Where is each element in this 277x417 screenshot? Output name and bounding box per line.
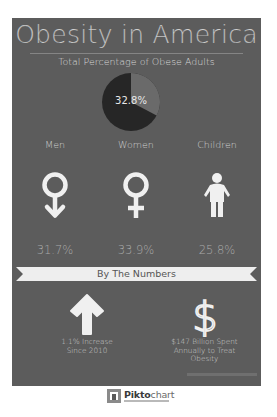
category-label-men: Men [15,139,95,150]
stat-spending-text: $147 Billion Spent Annually to Treat Obe… [152,338,257,364]
stat-spending-line3: Obesity [152,355,257,364]
category-value-children: 25.8% [177,243,257,257]
logo-tagline [124,400,169,402]
banner-label: By The Numbers [16,267,257,281]
category-label-children: Children [177,139,257,150]
piktochart-logo-icon [107,389,121,403]
arrow-up-icon [68,293,106,335]
source-credit-text [187,373,257,376]
logo-rest: chart [151,389,175,400]
logo-bold: Pikto [124,389,151,400]
pie-subtitle: Total Percentage of Obese Adults [12,56,261,67]
infographic-panel: Obesity in America Total Percentage of O… [12,18,261,386]
piktochart-wordmark: Piktochart [124,389,174,400]
pie-center-label: 32.8% [101,95,161,106]
male-symbol-icon [35,170,75,220]
stat-increase-line2: Since 2010 [37,347,137,356]
category-label-women: Women [96,139,176,150]
svg-text:$: $ [192,295,217,337]
title-divider [30,53,243,54]
child-figure-icon [197,170,237,220]
category-value-women: 33.9% [96,243,176,257]
infographic-title: Obesity in America [12,20,261,49]
piktochart-logo[interactable]: Piktochart [107,389,173,405]
stat-increase-text: 1.1% Increase Since 2010 [37,338,137,355]
female-symbol-icon [116,170,156,220]
category-value-men: 31.7% [15,243,95,257]
dollar-sign-icon: $ [190,295,220,337]
